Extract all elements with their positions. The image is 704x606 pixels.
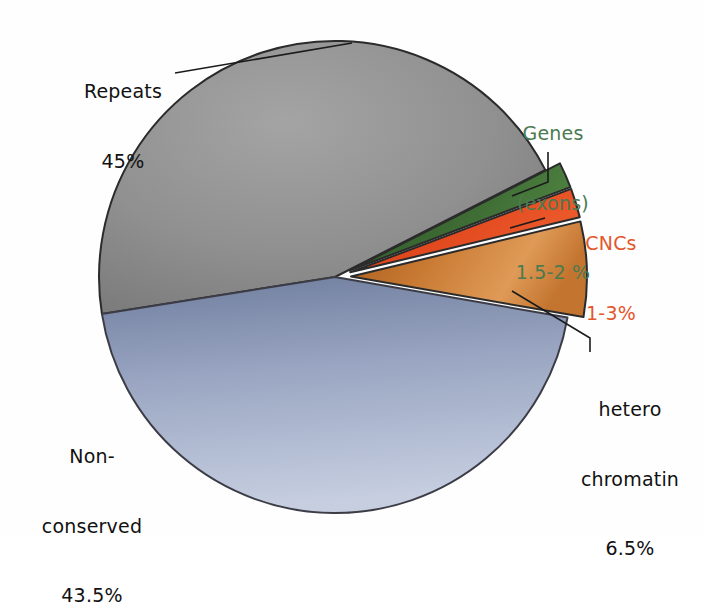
label-repeats: Repeats 45%: [58, 34, 188, 219]
label-non-conserved-value: 43.5%: [22, 584, 162, 606]
label-heterochromatin-value: 6.5%: [560, 537, 700, 560]
label-repeats-value: 45%: [58, 150, 188, 173]
label-non-conserved-line2: conserved: [22, 515, 162, 538]
label-heterochromatin-line1: hetero: [560, 398, 700, 421]
label-heterochromatin-line2: chromatin: [560, 468, 700, 491]
label-cncs: CNCs 1-3%: [552, 186, 670, 371]
label-genes-line1: Genes: [490, 122, 616, 145]
label-non-conserved-line1: Non-: [22, 445, 162, 468]
label-repeats-line1: Repeats: [58, 80, 188, 103]
label-non-conserved: Non- conserved 43.5%: [22, 399, 162, 606]
label-heterochromatin: hetero chromatin 6.5%: [560, 352, 700, 606]
label-cncs-line1: CNCs: [552, 232, 670, 255]
label-cncs-value: 1-3%: [552, 302, 670, 325]
